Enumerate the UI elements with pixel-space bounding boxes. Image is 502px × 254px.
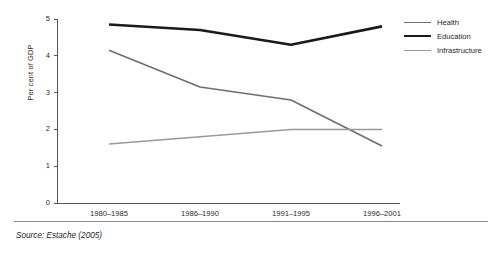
y-tick-label-3: 3 (34, 89, 50, 97)
x-tick-label-1991-1995: 1991–1995 (246, 209, 336, 218)
series-line-health (109, 50, 382, 146)
chart-legend: Health Education Infrastructure (404, 15, 502, 57)
y-axis-title: Per cent of GDP (26, 13, 35, 133)
legend-swatch-infrastructure (404, 50, 431, 51)
y-tick-label-2: 2 (34, 125, 50, 133)
x-tick-label-1996-2001: 1996–2001 (337, 209, 427, 218)
legend-label-education: Education (437, 32, 471, 41)
y-tick-label-1: 1 (34, 162, 50, 170)
series-line-education (109, 25, 382, 45)
legend-swatch-education (404, 35, 431, 37)
chart-figure: Per cent of GDP 5 4 3 2 1 0 1980–1985 19… (0, 0, 502, 254)
y-tick-label-0: 0 (34, 199, 50, 207)
legend-label-health: Health (437, 18, 459, 27)
legend-label-infrastructure: Infrastructure (437, 46, 482, 55)
x-tick-label-1986-1990: 1986–1990 (155, 209, 245, 218)
series-layer (109, 25, 382, 146)
series-line-infrastructure (109, 129, 382, 144)
legend-swatch-health (404, 22, 431, 23)
source-note: Source: Estache (2005) (16, 231, 102, 240)
legend-item-health: Health (404, 15, 502, 29)
x-tick-label-1980-1985: 1980–1985 (64, 209, 154, 218)
y-tick-label-4: 4 (34, 52, 50, 60)
legend-item-infrastructure: Infrastructure (404, 43, 502, 57)
legend-item-education: Education (404, 29, 502, 43)
y-tick-label-5: 5 (34, 15, 50, 23)
